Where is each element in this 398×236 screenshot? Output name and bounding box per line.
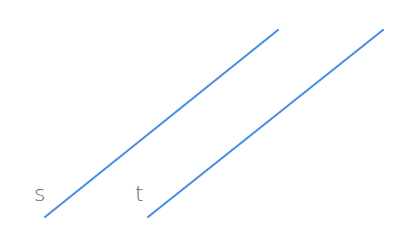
line-s bbox=[45, 30, 278, 217]
label-s: s bbox=[34, 181, 45, 206]
label-t: t bbox=[135, 181, 144, 206]
diagram-canvas: s t bbox=[0, 0, 398, 236]
line-t bbox=[148, 30, 383, 217]
